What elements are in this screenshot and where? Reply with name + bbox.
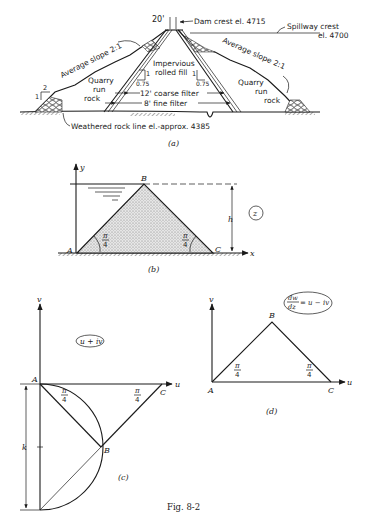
point-c-b: C bbox=[215, 245, 221, 254]
spillway-crest-label: Spillway crest bbox=[287, 22, 339, 31]
right-slope-label: Average slope 2:1 bbox=[221, 36, 287, 72]
panel-a-dam-section: 20' Dam crest el. 4715 Spillway crest el… bbox=[20, 15, 349, 148]
left-core-slope-v: 1 bbox=[146, 70, 150, 78]
point-b-d: B bbox=[268, 311, 275, 320]
spillway-leader bbox=[277, 27, 285, 33]
dwdz-den: dz bbox=[288, 303, 296, 311]
toe-slope-v: 1 bbox=[35, 93, 39, 101]
right-quarry-label: Quarry bbox=[238, 78, 264, 87]
angle-a-num-b: π bbox=[102, 232, 108, 240]
rock-line-label: Weathered rock line el.-approx. 4385 bbox=[71, 122, 210, 131]
crest-width-label: 20' bbox=[152, 15, 164, 24]
rock-line-leader bbox=[63, 113, 70, 126]
core-label-line1: Impervious bbox=[153, 59, 195, 68]
point-a-d: A bbox=[207, 386, 214, 395]
dam-triangle-b bbox=[77, 184, 213, 253]
dwdz-num: dw bbox=[288, 294, 298, 302]
panel-d-label: (d) bbox=[266, 407, 277, 416]
line-c-b-c bbox=[101, 384, 162, 447]
panel-b-z-plane: x y h z A B C π 4 π 4 (b) bbox=[58, 163, 263, 274]
angle-c-den-c: 4 bbox=[135, 396, 140, 404]
fine-filter-label: 8' fine filter bbox=[144, 99, 188, 108]
uv-plane-label: u + iv bbox=[80, 337, 103, 346]
right-core-slope-h: 0.75 bbox=[196, 80, 210, 87]
angle-a-den-d: 4 bbox=[235, 371, 240, 379]
axis-y-b: y bbox=[79, 163, 85, 172]
angle-c-num-c: π bbox=[134, 387, 140, 395]
point-b-b: B bbox=[140, 174, 147, 183]
line-a-b-c bbox=[40, 384, 101, 447]
right-run-label: run bbox=[255, 87, 268, 96]
point-c-c: C bbox=[160, 388, 166, 397]
panel-a-label: (a) bbox=[168, 139, 179, 148]
angle-c-den-b: 4 bbox=[183, 241, 188, 249]
angle-a-num-d: π bbox=[234, 362, 240, 370]
left-slope-leader bbox=[118, 41, 140, 46]
point-c-d: C bbox=[328, 386, 334, 395]
right-slope-leader bbox=[283, 76, 289, 93]
core-label-line2: rolled fill bbox=[155, 68, 187, 77]
line-b-bottom-c bbox=[40, 447, 101, 510]
hodograph-semicircle bbox=[40, 384, 103, 510]
angle-c-den-d: 4 bbox=[307, 371, 312, 379]
axis-u-d: u bbox=[347, 378, 352, 387]
angle-a-den-c: 4 bbox=[62, 396, 67, 404]
ground-hatch-mid bbox=[130, 113, 175, 116]
right-core-slope-v: 1 bbox=[192, 70, 196, 78]
angle-a-den-b: 4 bbox=[103, 241, 108, 249]
figure-8-2: 20' Dam crest el. 4715 Spillway crest el… bbox=[0, 0, 368, 527]
axis-v-d: v bbox=[209, 295, 214, 304]
k-label: k bbox=[22, 443, 27, 452]
axis-x-b: x bbox=[250, 249, 255, 258]
panel-d-dw-dz-plane: v u dw dz = u − iv A B C π 4 π 4 (d) bbox=[207, 292, 352, 416]
left-rock-label: rock bbox=[84, 94, 101, 103]
point-a-b: A bbox=[66, 246, 73, 255]
z-plane-label: z bbox=[252, 209, 258, 218]
right-rock-label: rock bbox=[264, 96, 281, 105]
left-run-label: run bbox=[93, 85, 106, 94]
h-label: h bbox=[228, 215, 233, 224]
point-b-c: B bbox=[103, 446, 110, 455]
spillway-elev-label: el. 4700 bbox=[318, 31, 349, 40]
left-quarry-label: Quarry bbox=[88, 76, 114, 85]
panel-c-hodograph: v u k u + iv A B C π 4 π 4 (c) bbox=[20, 295, 180, 510]
axis-v-c: v bbox=[37, 295, 42, 304]
figure-caption: Fig. 8-2 bbox=[167, 502, 200, 512]
panel-c-label: (c) bbox=[118, 473, 129, 482]
ground-hatch-left bbox=[20, 112, 60, 115]
right-rock-toe bbox=[285, 100, 310, 112]
dwdz-rhs: = u − iv bbox=[300, 299, 329, 307]
triangle-a-b-c-d bbox=[212, 322, 331, 382]
dam-crest-label: Dam crest el. 4715 bbox=[194, 17, 266, 26]
angle-c-num-b: π bbox=[182, 232, 188, 240]
angle-c-num-d: π bbox=[306, 362, 312, 370]
right-core-slope-triangle bbox=[197, 70, 205, 80]
panel-b-label: (b) bbox=[148, 265, 159, 274]
dam-crest-leader bbox=[180, 21, 193, 22]
axis-u-c: u bbox=[175, 380, 180, 389]
ground-hatch-right bbox=[285, 112, 315, 115]
angle-a-num-c: π bbox=[61, 387, 67, 395]
coarse-filter-label: 12' coarse filter bbox=[140, 89, 200, 98]
point-a-c: A bbox=[31, 375, 38, 384]
left-core-slope-h: 0.75 bbox=[136, 80, 150, 87]
toe-slope-h: 2 bbox=[43, 84, 47, 92]
